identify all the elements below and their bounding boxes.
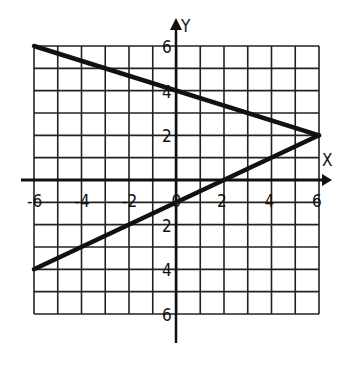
y-tick-label: 6 [162,37,172,57]
y-tick-label: 4 [162,260,172,280]
x-tick-label: -4 [75,191,90,211]
axes: X Y [21,16,332,343]
x-tick-label: 6 [312,191,322,211]
y-tick-label: 2 [162,216,172,236]
coordinate-plane: X Y -6-4-20246642246 [0,0,341,368]
x-axis-arrow-icon [322,174,332,186]
x-tick-label: -2 [122,191,137,211]
x-tick-label: -6 [27,191,42,211]
x-axis-label: X [322,150,332,170]
x-tick-label: 4 [265,191,275,211]
y-axis-label: Y [180,16,191,36]
y-tick-label: 6 [162,305,172,325]
y-tick-label: 2 [162,126,172,146]
x-tick-label: 2 [217,191,227,211]
